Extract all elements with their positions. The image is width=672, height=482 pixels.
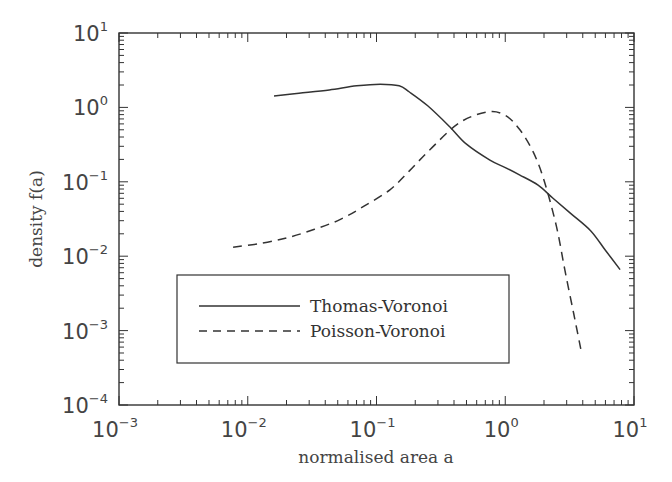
x-tick-label: 101 <box>612 415 647 442</box>
y-tick-label: 10−3 <box>62 317 108 344</box>
y-tick-label: 100 <box>73 93 108 120</box>
y-axis-tick-labels: 10−410−310−210−1100101 <box>62 19 108 418</box>
x-tick-label: 10−3 <box>92 415 138 442</box>
y-axis-label: density f(a) <box>26 170 46 268</box>
legend-label-thomas-voronoi: Thomas-Voronoi <box>310 296 449 316</box>
series-thomas-voronoi <box>274 84 620 269</box>
y-tick-label: 10−2 <box>62 242 108 269</box>
y-tick-label: 101 <box>73 19 108 46</box>
legend-label-poisson-voronoi: Poisson-Voronoi <box>310 321 446 341</box>
legend: Thomas-Voronoi Poisson-Voronoi <box>177 275 509 363</box>
y-tick-label: 10−4 <box>62 391 108 418</box>
density-chart: 10−310−210−1100101 10−410−310−210−110010… <box>0 0 672 482</box>
y-tick-label: 10−1 <box>62 168 108 195</box>
legend-box <box>177 275 509 363</box>
x-axis-tick-labels: 10−310−210−1100101 <box>92 415 647 442</box>
x-axis-label: normalised area a <box>298 447 454 467</box>
x-tick-label: 10−2 <box>221 415 267 442</box>
x-tick-label: 10−1 <box>350 415 396 442</box>
x-tick-label: 100 <box>484 415 519 442</box>
